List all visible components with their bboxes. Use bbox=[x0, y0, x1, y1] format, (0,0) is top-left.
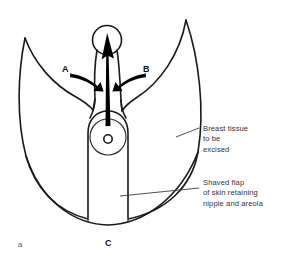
advancement-arrow-b bbox=[112, 74, 146, 92]
excision-outline-right-inner bbox=[122, 20, 186, 111]
figure-index-label: a bbox=[18, 240, 22, 249]
marker-label-c: C bbox=[105, 238, 112, 248]
excision-outline-left-outer bbox=[19, 38, 88, 219]
inframammary-fold-arc bbox=[26, 152, 198, 225]
nipple-circle bbox=[104, 135, 112, 143]
callout-shaved-flap: Shaved flap of skin retaining nipple and… bbox=[203, 178, 263, 209]
marker-label-b: B bbox=[143, 64, 150, 74]
advancement-arrow-a bbox=[70, 74, 104, 92]
nipple-transposition-arrow bbox=[102, 33, 114, 126]
leader-line-shaved-flap bbox=[120, 188, 199, 196]
surgical-diagram-figure: Breast tissue to be excised Shaved flap … bbox=[0, 0, 283, 259]
leader-line-breast-tissue bbox=[176, 128, 199, 137]
callout-breast-tissue: Breast tissue to be excised bbox=[203, 124, 248, 155]
marker-label-a: A bbox=[62, 64, 69, 74]
pedicle-flap-outline bbox=[88, 111, 128, 217]
excision-outline-left-inner bbox=[25, 38, 93, 110]
